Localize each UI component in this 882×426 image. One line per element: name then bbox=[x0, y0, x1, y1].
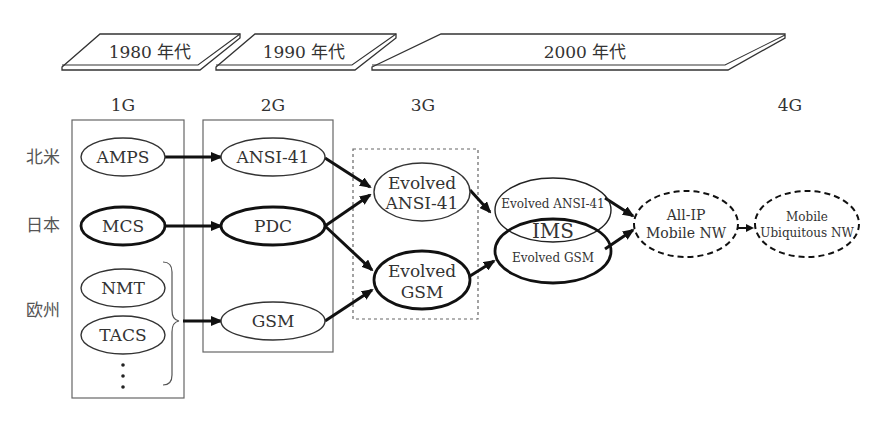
node-pdc[interactable]: PDC bbox=[221, 207, 325, 245]
node-evolved-gsm-line1: Evolved bbox=[388, 261, 456, 281]
node-evolved-ansi-41-line2: ANSI-41 bbox=[385, 193, 459, 213]
europe-1g-brace bbox=[163, 262, 179, 385]
era-banner-1990s: 1990 年代 bbox=[216, 34, 396, 70]
node-evolved-gsm-line2: GSM bbox=[401, 282, 444, 302]
node-nmt[interactable]: NMT bbox=[81, 269, 165, 307]
node-gsm[interactable]: GSM bbox=[221, 302, 325, 340]
ims-label: IMS bbox=[532, 219, 574, 243]
era-label-2000s: 2000 年代 bbox=[544, 42, 627, 62]
node-evolved-gsm[interactable]: Evolved GSM bbox=[374, 251, 470, 309]
all-ip-line2: Mobile NW bbox=[646, 225, 727, 241]
region-label-europe: 欧州 bbox=[26, 300, 60, 320]
ims-evolved-gsm-label: Evolved GSM bbox=[512, 251, 594, 265]
all-ip-line1: All-IP bbox=[666, 207, 706, 223]
generation-label-1g: 1G bbox=[111, 95, 135, 115]
generation-label-2g: 2G bbox=[261, 95, 285, 115]
node-all-ip-mobile-nw[interactable]: All-IP Mobile NW bbox=[634, 191, 738, 257]
generation-label-3g: 3G bbox=[411, 95, 435, 115]
node-ansi-41-label: ANSI-41 bbox=[236, 147, 310, 167]
more-1g-systems-ellipsis bbox=[121, 363, 125, 389]
region-label-japan: 日本 bbox=[26, 215, 60, 235]
ubiquitous-line2: Ubiquitous NW bbox=[760, 226, 854, 240]
era-label-1980s: 1980 年代 bbox=[109, 42, 192, 62]
era-banner-2000s: 2000 年代 bbox=[372, 34, 785, 70]
node-pdc-label: PDC bbox=[254, 216, 292, 236]
mobile-network-evolution-diagram: 1980 年代 1990 年代 2000 年代 1G 2G 3G 4G 北米 日… bbox=[0, 0, 882, 426]
node-amps-label: AMPS bbox=[96, 147, 150, 167]
node-mobile-ubiquitous-nw[interactable]: Mobile Ubiquitous NW bbox=[755, 191, 859, 257]
node-tacs-label: TACS bbox=[99, 325, 146, 345]
ubiquitous-line1: Mobile bbox=[786, 210, 828, 224]
node-evolved-ansi-41[interactable]: Evolved ANSI-41 bbox=[374, 163, 470, 221]
node-evolved-ansi-41-line1: Evolved bbox=[388, 173, 456, 193]
ims-evolved-ansi-41-label: Evolved ANSI-41 bbox=[501, 197, 604, 211]
node-gsm-label: GSM bbox=[252, 311, 295, 331]
node-tacs[interactable]: TACS bbox=[81, 316, 165, 354]
node-amps[interactable]: AMPS bbox=[81, 138, 165, 176]
node-ansi-41[interactable]: ANSI-41 bbox=[221, 138, 325, 176]
era-label-1990s: 1990 年代 bbox=[263, 42, 346, 62]
node-mcs-label: MCS bbox=[102, 216, 144, 236]
region-label-north-america: 北米 bbox=[26, 147, 60, 167]
node-nmt-label: NMT bbox=[101, 278, 145, 298]
node-ims[interactable]: Evolved ANSI-41 IMS Evolved GSM bbox=[495, 178, 611, 283]
node-mcs[interactable]: MCS bbox=[81, 207, 165, 245]
era-banner-1980s: 1980 年代 bbox=[62, 34, 240, 70]
generation-label-4g: 4G bbox=[778, 95, 802, 115]
